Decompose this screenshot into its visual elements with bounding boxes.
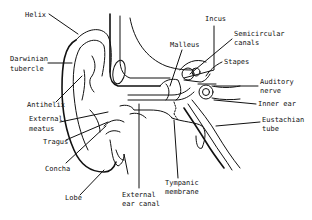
- label-malleus: Malleus: [170, 41, 200, 49]
- label-external-ear-canal: ear canal: [122, 200, 160, 208]
- label-external-meatus: External: [29, 115, 63, 123]
- label-tragus: Tragus: [43, 138, 68, 146]
- label-tympanic-membrane: Tympanic: [165, 179, 199, 187]
- label-eustachian-tube: tube: [262, 125, 279, 133]
- label-stapes: Stapes: [224, 58, 249, 66]
- pinna-outline: [62, 30, 128, 174]
- label-tympanic-membrane: membrane: [165, 188, 199, 196]
- label-helix: Helix: [25, 11, 46, 19]
- label-incus: Incus: [205, 15, 226, 23]
- label-auditory-nerve: nerve: [260, 87, 281, 95]
- label-eustachian-tube: Eustachian: [262, 116, 304, 124]
- label-inner-ear: Inner ear: [258, 100, 296, 108]
- label-external-ear-canal: External: [122, 191, 156, 199]
- labels: Helix Darwinian tubercle Antihelix Exter…: [10, 11, 304, 208]
- label-external-meatus: meatus: [29, 125, 54, 133]
- label-lobe: Lobe: [65, 194, 82, 202]
- label-concha: Concha: [45, 165, 70, 173]
- label-darwinian-tubercle: Darwinian: [10, 55, 48, 63]
- label-semicircular-canals: canals: [234, 39, 259, 47]
- label-darwinian-tubercle: tubercle: [10, 65, 44, 73]
- middle-inner-ear: [160, 60, 240, 170]
- label-semicircular-canals: Semicircular: [234, 30, 285, 38]
- label-auditory-nerve: Auditory: [260, 78, 294, 86]
- ear-anatomy-diagram: Helix Darwinian tubercle Antihelix Exter…: [0, 0, 312, 220]
- diagram-drawing: Helix Darwinian tubercle Antihelix Exter…: [0, 0, 312, 220]
- label-antihelix: Antihelix: [27, 101, 65, 109]
- leader-lines: [48, 14, 260, 195]
